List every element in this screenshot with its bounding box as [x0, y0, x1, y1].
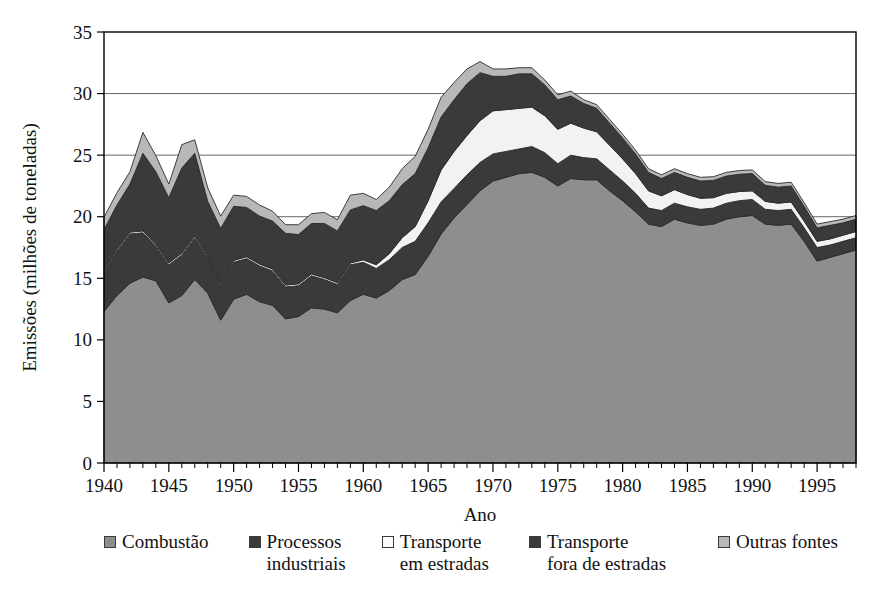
- x-axis-tick-label: 1990: [733, 475, 771, 496]
- legend-swatch-transporte-fora-de-estradas: [529, 536, 541, 548]
- legend-label-line2: fora de estradas: [547, 553, 666, 575]
- legend-label-processos-industriais: Processos industriais: [267, 531, 346, 576]
- x-axis-tick-label: 1975: [539, 475, 577, 496]
- legend-label-line1: Transporte: [547, 531, 629, 552]
- y-axis-tick-label: 20: [73, 206, 92, 227]
- legend-swatch-transporte-em-estradas: [382, 536, 394, 548]
- legend-label-transporte-em-estradas: Transporte em estradas: [400, 531, 489, 576]
- x-axis-tick-label: 1965: [409, 475, 447, 496]
- legend-label-line1: Transporte: [400, 531, 482, 552]
- y-axis-title: Emissões (milhões de toneladas): [19, 123, 41, 372]
- legend-swatch-combustao: [104, 536, 116, 548]
- legend-label-line2: em estradas: [400, 553, 489, 575]
- y-axis-tick-label: 0: [83, 453, 93, 474]
- x-axis-tick-label: 1970: [474, 475, 512, 496]
- legend-label-transporte-fora-de-estradas: Transporte fora de estradas: [547, 531, 666, 576]
- y-axis-tick-label: 10: [73, 329, 92, 350]
- x-axis-tick-label: 1940: [85, 475, 123, 496]
- x-axis-tick-label: 1955: [279, 475, 317, 496]
- x-axis-tick-label: 1960: [344, 475, 382, 496]
- legend-label-line1: Combustão: [122, 531, 209, 552]
- x-axis-tick-label: 1945: [150, 475, 188, 496]
- legend-swatch-processos-industriais: [249, 536, 261, 548]
- x-axis-tick-label: 1950: [215, 475, 253, 496]
- y-axis-tick-label: 15: [73, 268, 92, 289]
- legend-item-transporte-em-estradas[interactable]: Transporte em estradas: [382, 531, 489, 576]
- stacked-area-chart: 0510152025303519401945195019551960196519…: [0, 0, 891, 599]
- legend-label-line1: Outras fontes: [736, 531, 838, 552]
- y-axis-tick-label: 30: [73, 83, 92, 104]
- x-axis-title: Ano: [464, 504, 497, 525]
- legend-item-processos-industriais[interactable]: Processos industriais: [249, 531, 346, 576]
- y-axis-tick-label: 25: [73, 145, 92, 166]
- legend-label-line2: industriais: [267, 553, 346, 575]
- legend-label-combustao: Combustão: [122, 531, 209, 553]
- legend-item-combustao[interactable]: Combustão: [104, 531, 209, 553]
- x-axis-tick-label: 1980: [604, 475, 642, 496]
- x-axis-tick-label: 1985: [668, 475, 706, 496]
- chart-canvas: 0510152025303519401945195019551960196519…: [0, 0, 891, 599]
- legend-label-line1: Processos: [267, 531, 342, 552]
- x-axis-tick-label: 1995: [798, 475, 836, 496]
- legend-swatch-outras-fontes: [718, 536, 730, 548]
- y-axis-tick-label: 35: [73, 22, 92, 43]
- legend-item-transporte-fora-de-estradas[interactable]: Transporte fora de estradas: [529, 531, 666, 576]
- chart-legend: Combustão Processos industriais Transpor…: [0, 531, 891, 593]
- y-axis-tick-label: 5: [83, 391, 93, 412]
- legend-item-outras-fontes[interactable]: Outras fontes: [718, 531, 838, 553]
- legend-label-outras-fontes: Outras fontes: [736, 531, 838, 553]
